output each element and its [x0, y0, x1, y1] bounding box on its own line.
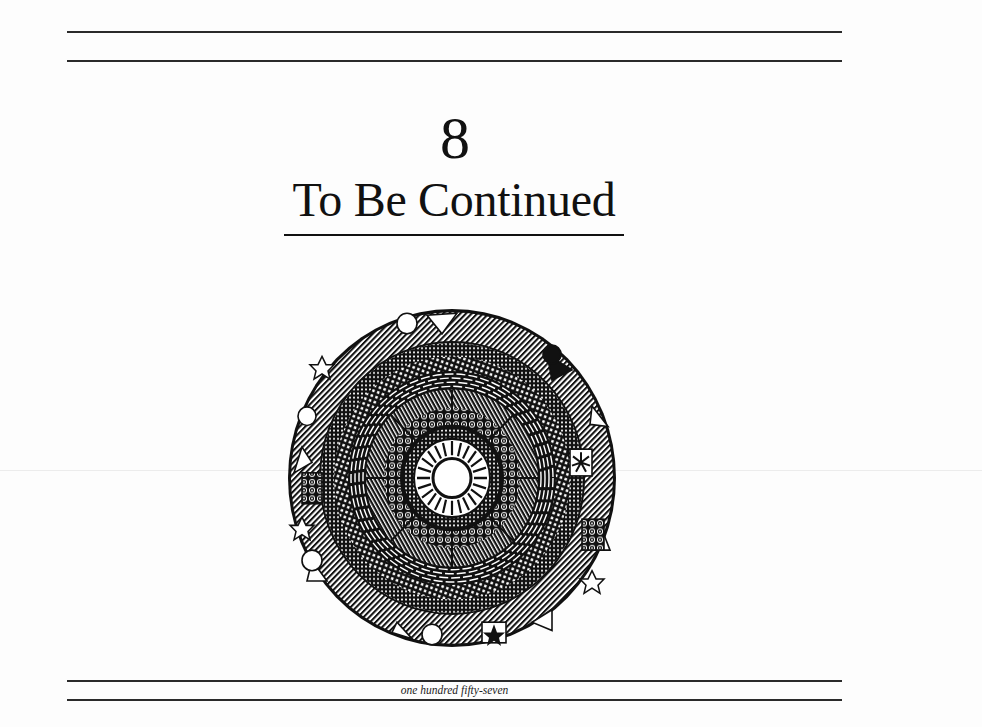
- footer-rule-top: [67, 680, 842, 682]
- chapter-number: 8: [0, 108, 910, 168]
- mandala-icon: [285, 306, 619, 650]
- header-rule-top: [67, 31, 842, 33]
- header-rule-bottom: [67, 60, 842, 62]
- chapter-title: To Be Continued: [284, 172, 624, 228]
- footer-rule-bottom: [67, 699, 842, 701]
- title-underline: [284, 234, 624, 236]
- page-folio: one hundred fifty-seven: [67, 683, 842, 697]
